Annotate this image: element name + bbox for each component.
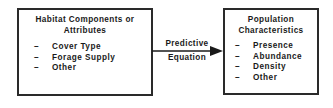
- habitat-title-line1: Habitat Components or: [19, 15, 151, 26]
- dash-bullet-icon: –: [235, 52, 240, 63]
- list-item: –Presence: [225, 41, 317, 52]
- arrow-label-equation: Equation: [154, 53, 220, 63]
- list-item-label: Presence: [253, 41, 293, 50]
- population-title-line2: Characteristics: [225, 26, 317, 37]
- list-item: –Cover Type: [19, 42, 151, 53]
- dash-bullet-icon: –: [34, 63, 39, 74]
- list-item-label: Cover Type: [52, 42, 101, 51]
- dash-bullet-icon: –: [34, 42, 39, 53]
- list-item: –Density: [225, 62, 317, 73]
- list-item: –Forage Supply: [19, 53, 151, 64]
- population-characteristics-title: Population Characteristics: [225, 15, 317, 36]
- dash-bullet-icon: –: [235, 73, 240, 84]
- list-item-label: Forage Supply: [52, 53, 115, 62]
- list-item: –Other: [19, 63, 151, 74]
- habitat-title-line2: Attributes: [19, 26, 151, 37]
- list-item-label: Other: [253, 73, 277, 82]
- habitat-components-box: Habitat Components or Attributes –Cover …: [17, 8, 153, 96]
- population-title-line1: Population: [225, 15, 317, 26]
- dash-bullet-icon: –: [235, 62, 240, 73]
- list-item-label: Abundance: [253, 52, 302, 61]
- habitat-attributes-list: –Cover Type –Forage Supply –Other: [19, 42, 151, 74]
- dash-bullet-icon: –: [235, 41, 240, 52]
- list-item-label: Density: [253, 62, 286, 71]
- habitat-components-title: Habitat Components or Attributes: [19, 15, 151, 36]
- list-item-label: Other: [52, 63, 76, 72]
- population-characteristics-box: Population Characteristics –Presence –Ab…: [223, 8, 319, 95]
- list-item: –Abundance: [225, 52, 317, 63]
- dash-bullet-icon: –: [34, 53, 39, 64]
- list-item: –Other: [225, 73, 317, 84]
- arrow-label-predictive: Predictive: [154, 39, 220, 49]
- population-characteristics-list: –Presence –Abundance –Density –Other: [225, 41, 317, 83]
